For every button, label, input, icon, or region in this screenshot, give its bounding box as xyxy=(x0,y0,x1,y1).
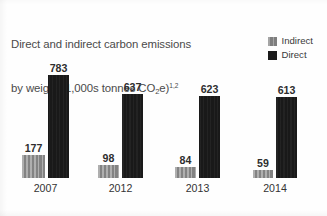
bar-2013-direct: 623 xyxy=(199,96,220,178)
bar-2013-indirect: 84 xyxy=(175,167,196,178)
bar-2014-indirect: 59 xyxy=(253,170,273,178)
bar-value-2007-indirect: 177 xyxy=(25,143,43,154)
category-label-2013: 2013 xyxy=(175,182,220,194)
bar-2012-direct: 637 xyxy=(122,94,143,178)
bar-2007-direct: 783 xyxy=(48,75,69,178)
bar-value-2014-indirect: 59 xyxy=(257,158,269,169)
category-label-2007: 2007 xyxy=(22,182,69,194)
bar-2014-direct: 613 xyxy=(276,97,297,178)
bar-2007-indirect: 177 xyxy=(22,155,45,178)
bar-value-2012-indirect: 98 xyxy=(103,153,115,164)
bar-value-2013-direct: 623 xyxy=(201,84,219,95)
bar-group-2014: 59 613 xyxy=(253,38,297,178)
bar-group-2012: 98 637 xyxy=(98,38,143,178)
carbon-emissions-bar-chart: Direct and indirect carbon emissions by … xyxy=(0,0,327,216)
bar-group-2013: 84 623 xyxy=(175,38,220,178)
bar-group-2007: 177 783 xyxy=(22,38,69,178)
bar-value-2012-direct: 637 xyxy=(124,82,142,93)
category-label-2012: 2012 xyxy=(98,182,143,194)
bar-value-2013-indirect: 84 xyxy=(180,155,192,166)
plot-area: 177 783 2007 98 637 2012 84 623 20 xyxy=(0,0,327,216)
category-label-2014: 2014 xyxy=(253,182,297,194)
bar-2012-indirect: 98 xyxy=(98,165,119,178)
bar-value-2014-direct: 613 xyxy=(278,85,296,96)
bar-value-2007-direct: 783 xyxy=(50,63,68,74)
